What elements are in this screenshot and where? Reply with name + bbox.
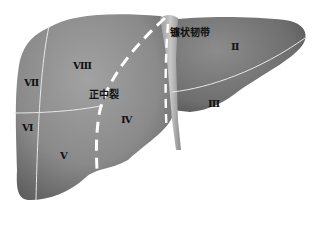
label-falciform-ligament: 镰状韧带 — [170, 28, 210, 38]
label-segment-8: Ⅷ — [73, 61, 92, 71]
label-segment-4: Ⅳ — [121, 115, 132, 125]
liver-diagram: 镰状韧带 正中裂 Ⅱ Ⅲ Ⅳ Ⅴ Ⅵ Ⅶ Ⅷ — [0, 0, 316, 226]
label-segment-2: Ⅱ — [231, 42, 239, 52]
label-segment-6: Ⅵ — [22, 123, 34, 133]
label-segment-5: Ⅴ — [60, 151, 68, 161]
label-segment-7: Ⅶ — [24, 78, 39, 88]
liver-illustration — [0, 0, 316, 226]
label-segment-3: Ⅲ — [208, 99, 220, 109]
label-median-fissure: 正中裂 — [89, 90, 119, 100]
